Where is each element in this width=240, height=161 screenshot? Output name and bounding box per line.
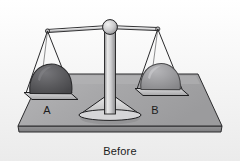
pan-a-label: A [43, 104, 51, 116]
pan-b-label: B [151, 104, 158, 116]
center-post [105, 30, 116, 114]
post-shaft [105, 30, 116, 114]
figure-caption: Before [0, 145, 240, 157]
scale-diagram-svg: A B [0, 0, 240, 161]
balance-scale-illustration: A B Before [0, 0, 240, 161]
platform-front-face [18, 126, 222, 132]
pivot-ball [103, 20, 118, 35]
